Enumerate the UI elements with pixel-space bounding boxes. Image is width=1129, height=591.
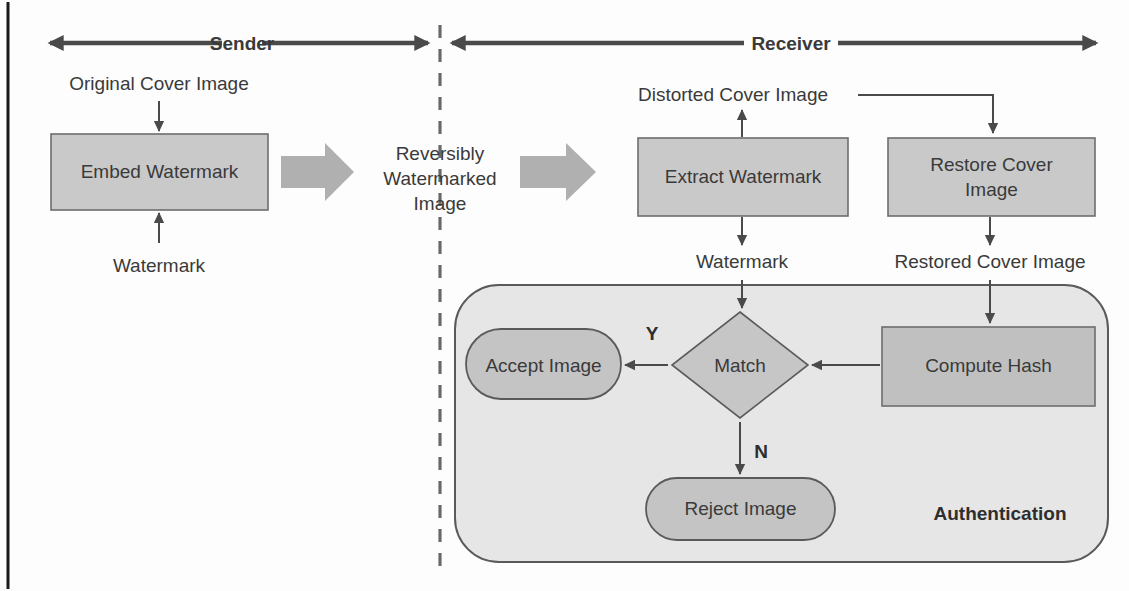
decision-label-match: Match: [714, 355, 766, 376]
flow-label-reversibly-line2: Watermarked: [383, 168, 496, 189]
block-arrow-to-channel: [281, 143, 354, 201]
band-label-sender: Sender: [210, 33, 275, 54]
terminal-label-accept-image: Accept Image: [485, 355, 601, 376]
watermarking-flow-diagram: Sender Receiver Original Cover Image Emb…: [0, 0, 1129, 591]
terminal-label-reject-image: Reject Image: [685, 498, 797, 519]
process-label-restore-cover-line2: Image: [965, 179, 1018, 200]
band-label-receiver: Receiver: [751, 33, 831, 54]
band-receiver: Receiver: [452, 33, 1096, 54]
flow-label-distorted-cover-image: Distorted Cover Image: [638, 84, 828, 105]
flow-label-original-cover-image: Original Cover Image: [69, 73, 249, 94]
flow-label-reversibly-line1: Reversibly: [396, 143, 485, 164]
process-box-restore-cover-image[interactable]: [888, 138, 1095, 216]
flow-label-watermark-output: Watermark: [696, 251, 789, 272]
flow-label-watermark-input: Watermark: [113, 255, 206, 276]
process-label-extract-watermark: Extract Watermark: [665, 166, 822, 187]
diagram-page: Sender Receiver Original Cover Image Emb…: [0, 0, 1129, 591]
branch-label-no: N: [754, 441, 768, 462]
band-sender: Sender: [50, 33, 428, 54]
flow-label-reversibly-line3: Image: [414, 193, 467, 214]
process-label-restore-cover-line1: Restore Cover: [930, 154, 1053, 175]
flow-label-restored-cover-image: Restored Cover Image: [894, 251, 1085, 272]
process-label-compute-hash: Compute Hash: [925, 355, 1052, 376]
authentication-panel-label: Authentication: [934, 503, 1067, 524]
process-label-embed-watermark: Embed Watermark: [81, 161, 239, 182]
connector-distorted-to-restore: [858, 95, 993, 133]
block-arrow-to-receiver: [520, 143, 596, 201]
branch-label-yes: Y: [646, 323, 659, 344]
